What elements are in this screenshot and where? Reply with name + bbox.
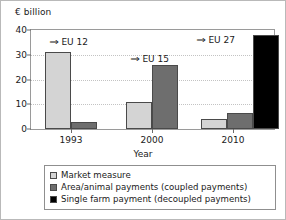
chart-figure: € billion 0 10 20 30 40 1993 2000 [0,0,286,220]
legend-swatch-decoupled-payments-icon [50,196,57,203]
x-tick-mark-1993 [71,129,72,133]
x-axis-label: Year [1,149,285,159]
x-tick-mark-2000 [152,129,153,133]
bar-1993-coupled-payments [71,122,97,129]
bar-2010-decoupled-payments [253,35,279,129]
legend-label-market-measure: Market measure [61,169,131,181]
arrow-right-icon: ⇒ [196,35,206,45]
y-axis-label: € billion [15,7,51,17]
y-tick-label-40: 40 [16,25,31,35]
x-tick-label-2010: 2010 [222,135,245,145]
legend-item-market-measure: Market measure [50,169,270,181]
legend-swatch-market-measure-icon [50,172,57,179]
legend-swatch-coupled-payments-icon [50,184,57,191]
legend: Market measure Area/animal payments (cou… [44,165,276,210]
plot-area: 0 10 20 30 40 1993 2000 2010 [30,29,275,130]
bar-2000-market-measure [126,102,152,129]
legend-item-coupled-payments: Area/animal payments (coupled payments) [50,181,270,193]
annotation-eu15: ⇒ EU 15 [131,54,169,64]
bar-group-2000: 2000 [112,30,193,129]
annotation-eu27: ⇒ EU 27 [197,35,235,45]
bar-2000-coupled-payments [152,65,178,129]
y-tick-label-10: 10 [16,99,31,109]
y-tick-label-20: 20 [16,75,31,85]
x-tick-label-1993: 1993 [60,135,83,145]
legend-label-decoupled-payments: Single farm payment (decoupled payments) [61,193,251,205]
y-tick-label-30: 30 [16,50,31,60]
bar-1993-market-measure [45,52,71,129]
arrow-right-icon: ⇒ [130,54,140,64]
x-tick-label-2000: 2000 [141,135,164,145]
legend-label-coupled-payments: Area/animal payments (coupled payments) [61,181,247,193]
legend-item-decoupled-payments: Single farm payment (decoupled payments) [50,193,270,205]
annotation-eu12: ⇒ EU 12 [50,37,88,47]
bar-2010-market-measure [201,119,227,129]
y-tick-label-0: 0 [21,124,31,134]
arrow-right-icon: ⇒ [49,37,59,47]
x-tick-mark-2010 [233,129,234,133]
annotation-eu27-label: EU 27 [208,35,235,45]
bar-2010-coupled-payments [227,113,253,129]
annotation-eu15-label: EU 15 [142,54,169,64]
annotation-eu12-label: EU 12 [61,37,88,47]
